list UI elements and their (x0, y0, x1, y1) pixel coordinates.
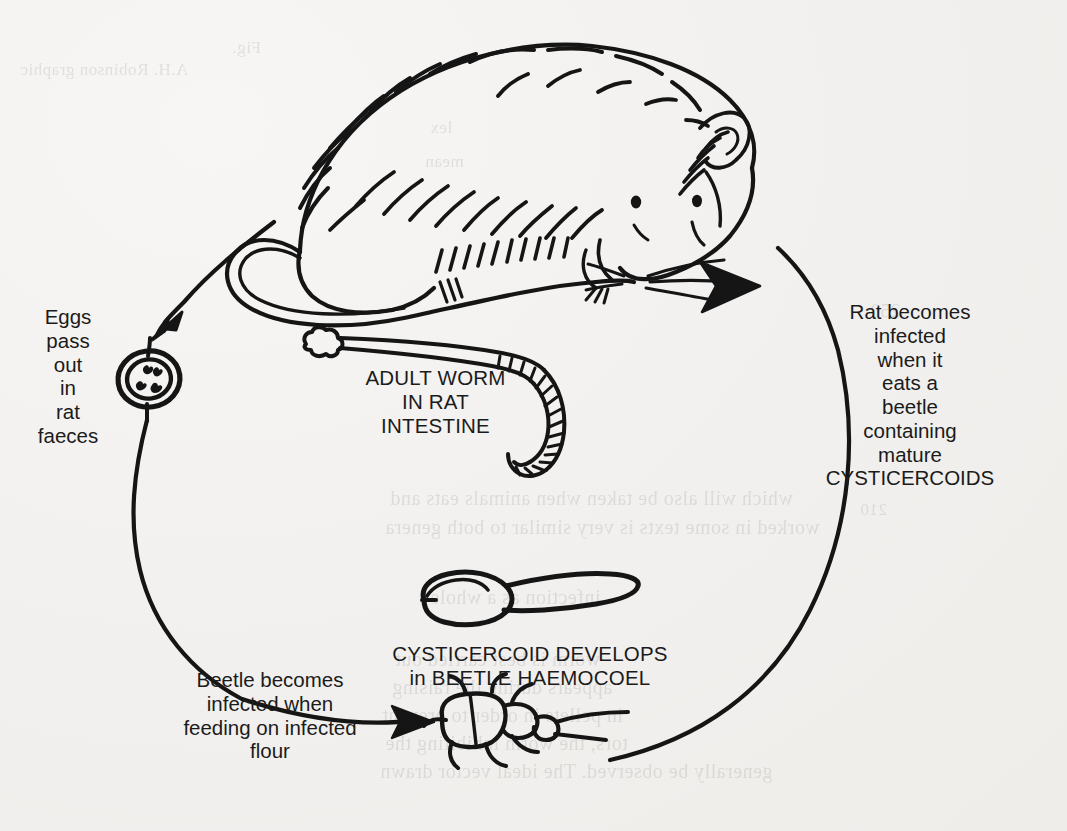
caption-rat-becomes-infected: Rat becomes infected when it eats a beet… (770, 300, 1050, 490)
caption-eggs-pass-out: Eggs pass out in rat faeces (8, 305, 128, 448)
caption-beetle-becomes-infected: Beetle becomes infected when feeding on … (120, 668, 420, 763)
scanned-page: Fig.A.H. Robinson graphic250lexmeanwhich… (0, 0, 1067, 831)
cysticercoid-figure (422, 572, 638, 625)
rat-figure (227, 45, 754, 326)
caption-adult-worm-in-rat-intestine: ADULT WORM IN RAT INTESTINE (318, 366, 553, 437)
arrow-egg-to-beetle (134, 420, 240, 698)
